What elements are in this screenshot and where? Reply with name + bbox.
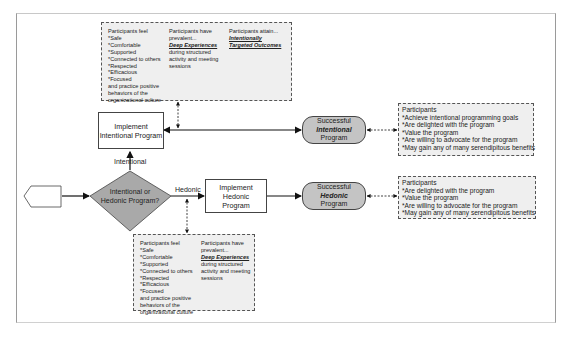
successful-intentional-terminal: Successful Intentional Program	[302, 116, 366, 144]
top-experience-note: Participants feel *Safe *Comfortable *Su…	[101, 22, 292, 101]
intentional-outcomes-note: Participants *Achieve intentional progra…	[398, 103, 534, 156]
successful-hedonic-terminal: Successful Hedonic Program	[302, 182, 366, 210]
implement-intentional-box: Implement Intentional Program	[98, 112, 164, 149]
decision-label: Intentional or Hedonic Program?	[90, 187, 170, 205]
implement-hedonic-box: Implement Hedonic Program	[205, 179, 267, 213]
bottom-note-experiences: Participants have prevalent... Deep Expe…	[201, 240, 250, 281]
start-pentagon	[24, 186, 61, 207]
hedonic-branch-label: Hedonic	[175, 186, 201, 193]
hedonic-outcomes-note: Participants *Are delighted with the pro…	[398, 176, 536, 219]
top-note-experiences: Participants have prevalent... Deep Expe…	[169, 28, 218, 69]
intentional-branch-label: Intentional	[114, 158, 146, 165]
bottom-experience-note: Participants feel *Safe *Comfortable *Su…	[133, 234, 255, 311]
top-note-outcomes: Participants attain... Intentionally Tar…	[229, 28, 281, 49]
top-note-feelings: Participants feel *Safe *Comfortable *Su…	[108, 28, 161, 104]
bottom-note-feelings: Participants feel *Safe *Comfortable *Su…	[140, 240, 193, 316]
